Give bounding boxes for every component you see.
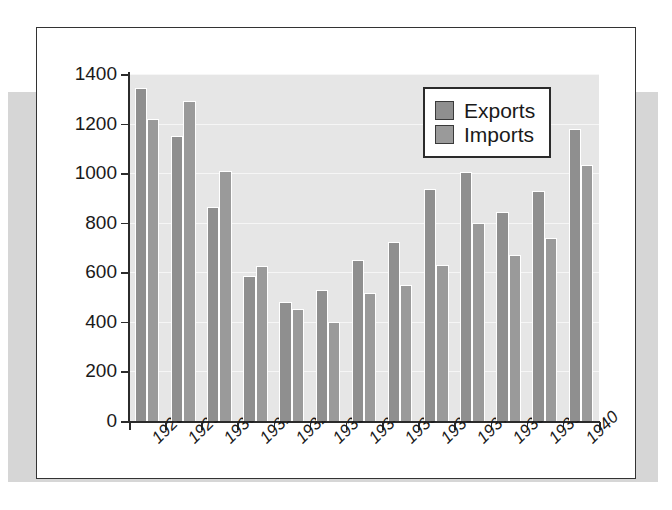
y-axis-tick (121, 223, 129, 225)
bar-exports-1932 (279, 302, 291, 421)
legend-label-imports: Imports (464, 124, 534, 145)
bar-exports-1930 (207, 207, 219, 421)
legend-swatch-imports (435, 125, 454, 144)
legend-item-imports[interactable]: Imports (435, 124, 535, 145)
plot-wrapper: 0200400600800100012001400 19281929193019… (37, 28, 637, 480)
bar-imports-1930 (219, 171, 231, 421)
legend-swatch-exports (435, 101, 454, 120)
bar-exports-1940 (569, 129, 581, 421)
y-axis-tick (121, 74, 129, 76)
legend-item-exports[interactable]: Exports (435, 100, 535, 121)
chart-legend: Exports Imports (423, 87, 551, 158)
y-axis-tick (121, 322, 129, 324)
bar-imports-1937 (472, 223, 484, 421)
bar-imports-1933 (328, 322, 340, 421)
bar-exports-1937 (460, 172, 472, 421)
y-axis-tick-label: 600 (37, 262, 117, 281)
y-axis-tick-label: 800 (37, 213, 117, 232)
y-axis-tick (121, 421, 129, 423)
bar-imports-1940 (581, 165, 593, 421)
bar-exports-1931 (243, 276, 255, 421)
bar-exports-1935 (388, 242, 400, 421)
bar-exports-1936 (424, 189, 436, 421)
y-axis-tick (121, 371, 129, 373)
y-axis-tick-label: 400 (37, 312, 117, 331)
bar-imports-1932 (292, 309, 304, 421)
bar-imports-1935 (400, 285, 412, 421)
y-axis-tick-label: 1400 (37, 64, 117, 83)
bar-exports-1933 (316, 290, 328, 421)
bar-exports-1929 (171, 136, 183, 421)
y-axis-tick (121, 124, 129, 126)
chart-page: 0200400600800100012001400 19281929193019… (0, 0, 672, 510)
bar-imports-1938 (509, 255, 521, 421)
bar-imports-1939 (545, 238, 557, 421)
y-axis-tick-label: 0 (37, 411, 117, 430)
bar-imports-1929 (183, 101, 195, 421)
bar-exports-1939 (532, 191, 544, 422)
bar-exports-1934 (352, 260, 364, 421)
bar-imports-1934 (364, 293, 376, 421)
y-axis-tick-label: 1200 (37, 114, 117, 133)
x-axis-tick (129, 422, 131, 430)
bar-exports-1938 (496, 212, 508, 421)
y-axis-tick (121, 272, 129, 274)
legend-label-exports: Exports (464, 100, 535, 121)
bar-imports-1928 (147, 119, 159, 421)
chart-figure-frame: 0200400600800100012001400 19281929193019… (36, 27, 636, 479)
y-axis-tick (121, 173, 129, 175)
y-axis-tick-label: 1000 (37, 163, 117, 182)
bar-imports-1931 (256, 266, 268, 421)
y-axis-tick-label: 200 (37, 361, 117, 380)
bar-exports-1928 (135, 88, 147, 421)
bar-imports-1936 (436, 265, 448, 421)
